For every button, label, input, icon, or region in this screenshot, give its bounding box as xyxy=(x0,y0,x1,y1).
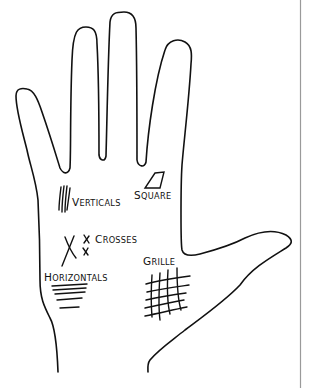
label-crosses: CROSSES xyxy=(95,233,137,245)
label-horizontals: HORIZONTALS xyxy=(44,271,108,283)
crosses-marks xyxy=(62,235,89,266)
horizontals-marks xyxy=(52,284,87,308)
hand-diagram: VERTICALS SQUARE CROSSES HORIZONTALS GRI… xyxy=(0,0,310,388)
square-mark xyxy=(145,172,164,188)
verticals-marks xyxy=(59,186,70,212)
label-square: SQUARE xyxy=(134,189,171,201)
grille-marks xyxy=(145,268,190,320)
label-grille: GRILLE xyxy=(143,255,175,267)
label-verticals: VERTICALS xyxy=(72,196,121,208)
